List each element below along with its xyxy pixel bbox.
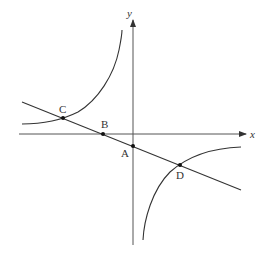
point-B xyxy=(101,132,105,136)
point-A-label: A xyxy=(121,147,129,159)
point-B-label: B xyxy=(101,118,108,130)
coordinate-diagram: x y C B A D xyxy=(0,0,270,258)
point-D-label: D xyxy=(176,169,184,181)
diagram-canvas: x y C B A D xyxy=(0,0,270,258)
point-A xyxy=(131,144,135,148)
hyperbola-branch-lower-right xyxy=(143,147,241,240)
point-C xyxy=(61,116,65,120)
y-axis-label: y xyxy=(126,7,132,19)
point-D xyxy=(178,163,182,167)
hyperbola-branch-upper-left xyxy=(22,30,122,124)
x-axis-label: x xyxy=(249,128,255,140)
point-C-label: C xyxy=(59,103,66,115)
